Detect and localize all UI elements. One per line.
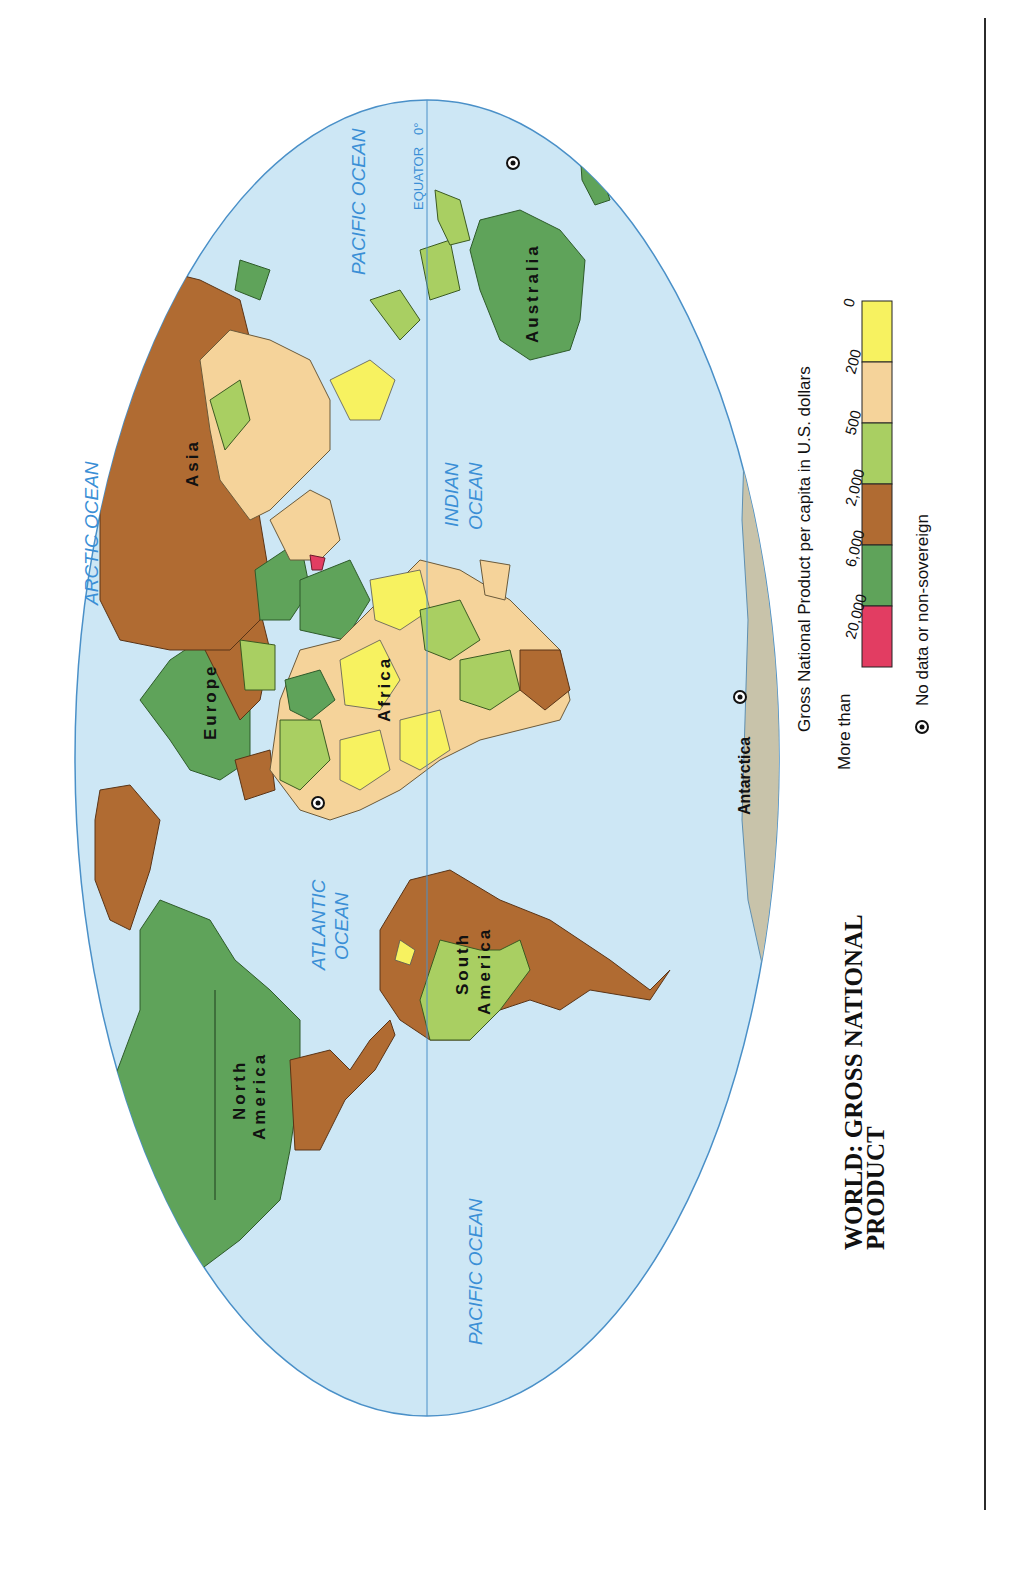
- indian-ocean-label-line1: INDIAN: [441, 462, 462, 527]
- legend-tick-200: 200: [841, 347, 864, 376]
- no-data-marker: [507, 157, 519, 169]
- pacific-ocean-east-label: PACIFIC OCEAN: [348, 128, 369, 275]
- australia-label: Australia: [523, 243, 542, 343]
- africa-label: Africa: [375, 656, 394, 722]
- north-america-label-line2: America: [250, 1052, 269, 1140]
- legend-tick-500: 500: [841, 408, 864, 437]
- legend-swatch-more-than-20000: [862, 606, 892, 667]
- legend-title: Gross National Product per capita in U.S…: [795, 366, 814, 732]
- map-title-line2: PRODUCT: [862, 1126, 889, 1250]
- equator-degree-label: 0°: [411, 123, 426, 135]
- equator-label: EQUATOR: [411, 147, 426, 210]
- indian-ocean-label-line2: OCEAN: [465, 462, 486, 530]
- north-america-label-line1: North: [230, 1060, 249, 1120]
- no-data-marker: [734, 691, 746, 703]
- legend-tick-0: 0: [839, 296, 858, 308]
- south-america-label-line2: America: [475, 927, 494, 1015]
- page-margin-rule: [984, 18, 986, 1510]
- world-gnp-map: EQUATOR 0° ARCTIC OCEAN PACIFIC OCEAN PA…: [0, 0, 1026, 1579]
- page: EQUATOR 0° ARCTIC OCEAN PACIFIC OCEAN PA…: [0, 0, 1026, 1579]
- atlantic-ocean-label-line1: ATLANTIC: [308, 879, 329, 971]
- legend-swatch-200-500: [862, 362, 892, 423]
- south-america-label-line1: South: [453, 932, 472, 995]
- asia-label: Asia: [183, 439, 202, 487]
- atlantic-ocean-label-line2: OCEAN: [331, 892, 352, 960]
- legend-more-than: More than: [835, 693, 854, 770]
- no-data-label: No data or non-sovereign: [913, 514, 932, 706]
- antarctica-label: Antarctica: [736, 737, 753, 815]
- pacific-ocean-west-label: PACIFIC OCEAN: [465, 1198, 486, 1345]
- legend-swatch-0-200: [862, 301, 892, 362]
- europe-label: Europe: [201, 663, 220, 740]
- legend: Gross National Product per capita in U.S…: [795, 296, 932, 770]
- no-data-symbol-icon: [916, 721, 928, 733]
- no-data-marker: [312, 797, 324, 809]
- arctic-ocean-label: ARCTIC OCEAN: [81, 461, 102, 606]
